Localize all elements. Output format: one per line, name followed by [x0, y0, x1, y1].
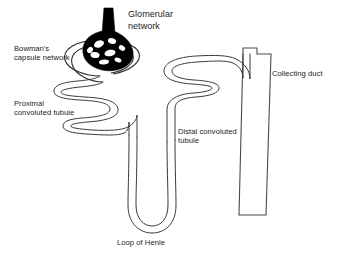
label-proximal-convoluted-tubule: Proximal convoluted tubule: [14, 99, 74, 118]
label-collecting-duct: Collecting duct: [272, 69, 323, 78]
label-glomerular-network: Glomerular network: [128, 9, 173, 32]
loop-of-henle-outer-wall: [128, 135, 176, 233]
label-distal-convoluted-tubule: Distal convoluted tubule: [178, 127, 237, 146]
collecting-duct-shape: [239, 48, 271, 215]
label-loop-of-henle: Loop of Henle: [117, 238, 165, 247]
nephron-diagram: Glomerular network Bowman's capsule netw…: [0, 0, 343, 259]
loop-of-henle-inner-wall: [136, 137, 168, 226]
label-bowmans-capsule: Bowman's capsule network: [14, 44, 70, 63]
afferent-arteriole-stem: [102, 8, 115, 34]
nephron-illustration: [0, 0, 343, 259]
